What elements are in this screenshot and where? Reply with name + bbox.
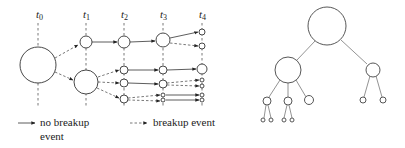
particle-node-t2 — [120, 95, 128, 103]
tree-leaf-node — [269, 118, 273, 122]
breakup-arrow — [170, 43, 198, 46]
legend: no breakup event breakup event — [18, 116, 215, 142]
particle-node-t4 — [200, 98, 204, 102]
no-breakup-arrow — [130, 41, 155, 42]
particle-node-t4 — [197, 64, 207, 74]
particle-node-t1 — [80, 36, 92, 48]
breakup-arrow — [55, 72, 73, 80]
particle-node-t4 — [199, 29, 205, 35]
tree-edge — [341, 40, 367, 64]
time-label-t2: t2 — [121, 8, 128, 22]
tree-node — [275, 57, 301, 83]
no-breakup-arrow — [170, 32, 198, 38]
tree-edge — [364, 76, 370, 97]
time-label-t1: t1 — [83, 8, 90, 22]
particle-node-t3 — [161, 93, 165, 97]
breakup-arrow — [128, 95, 160, 98]
breakup-arrow — [98, 70, 119, 77]
particle-node-t3 — [161, 98, 165, 102]
no-breakup-arrow — [128, 83, 158, 84]
tree-edge — [376, 76, 382, 97]
time-label-t4: t4 — [199, 8, 206, 22]
tree-leaf-node — [290, 118, 294, 122]
tree-node — [360, 97, 366, 103]
particle-node-t4 — [200, 93, 204, 97]
particle-node-t4 — [200, 78, 204, 82]
tree-node — [263, 97, 271, 105]
legend-no-breakup-label: no breakup — [40, 116, 90, 128]
tree-edge — [269, 80, 280, 97]
legend-breakup-label: breakup event — [153, 116, 215, 128]
tree-edge — [268, 105, 271, 118]
particle-node-t2 — [120, 66, 128, 74]
particle-node-t3 — [159, 66, 167, 74]
time-label-t0: t0 — [36, 8, 43, 22]
breakup-arrow — [128, 100, 160, 101]
time-lines — [38, 23, 202, 106]
tree-edge — [297, 41, 315, 60]
particle-node-t3 — [156, 33, 170, 47]
tree-node — [366, 63, 380, 77]
time-label-t3: t3 — [160, 8, 167, 22]
tree-edge — [289, 105, 292, 118]
particle-node-t2 — [118, 36, 130, 48]
tree-node — [380, 97, 386, 103]
tree-edge — [296, 80, 306, 97]
tree-leaf-node — [261, 118, 265, 122]
tree-edge — [284, 105, 287, 118]
particle-node-t2 — [120, 79, 128, 87]
particle-node-t0 — [20, 47, 56, 83]
particle-node-t4 — [200, 84, 204, 88]
particle-node-t1 — [74, 70, 98, 94]
breakup-arrow — [167, 80, 199, 83]
legend-no-breakup-label-line2: event — [40, 130, 64, 142]
time-labels: t0 t1 t2 t3 t4 — [36, 8, 206, 22]
no-breakup-arrow — [167, 69, 196, 70]
breakup-arrow — [98, 82, 119, 83]
particle-node-t3 — [159, 80, 167, 88]
tree-leaf-node — [282, 118, 286, 122]
breakup-arrow — [97, 88, 119, 98]
breakup-arrow — [167, 85, 199, 86]
timeline-nodes — [20, 29, 207, 103]
breakup-arrow — [55, 45, 78, 58]
breakup-tree — [261, 7, 386, 122]
particle-node-t4 — [199, 43, 205, 49]
tree-root-node — [308, 7, 346, 45]
tree-edge — [264, 105, 266, 118]
tree-node — [284, 97, 292, 105]
diagram-canvas: t0 t1 t2 t3 t4 — [0, 0, 405, 148]
tree-node — [305, 96, 314, 105]
